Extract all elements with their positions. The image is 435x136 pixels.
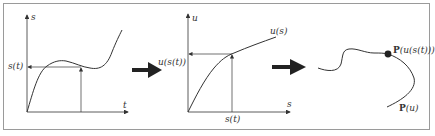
pipeline-arrow-2 <box>272 59 306 75</box>
panel3-point-label-p: P <box>393 45 400 55</box>
panel2-value-label: u(s(t)) <box>158 58 186 67</box>
panel2-curve-label: u(s) <box>270 27 287 36</box>
panel3-point-label-arg: (u(s(t))) <box>400 45 435 55</box>
panel2-y-axis-label: u <box>192 14 198 23</box>
panel3-space-curve-P <box>318 49 414 107</box>
point-P-of-u-of-s-of-t <box>385 51 392 58</box>
panel1-curve-s-of-t <box>27 30 122 112</box>
panel3-graph <box>318 49 414 107</box>
panel1-value-label: s(t) <box>8 62 23 71</box>
panel3-curve-label-arg: (u) <box>406 103 419 113</box>
panel3-point-label: P(u(s(t))) <box>393 46 435 55</box>
panel2-input-label: s(t) <box>225 115 240 124</box>
panel2-x-axis-label: s <box>287 100 292 109</box>
panel1-x-axis-label: t <box>123 101 127 110</box>
panel1-y-axis-label: s <box>31 13 36 22</box>
panel3-curve-label-p: P <box>399 103 406 113</box>
panel3-curve-label: P(u) <box>399 104 419 113</box>
panel1-graph <box>27 15 128 112</box>
